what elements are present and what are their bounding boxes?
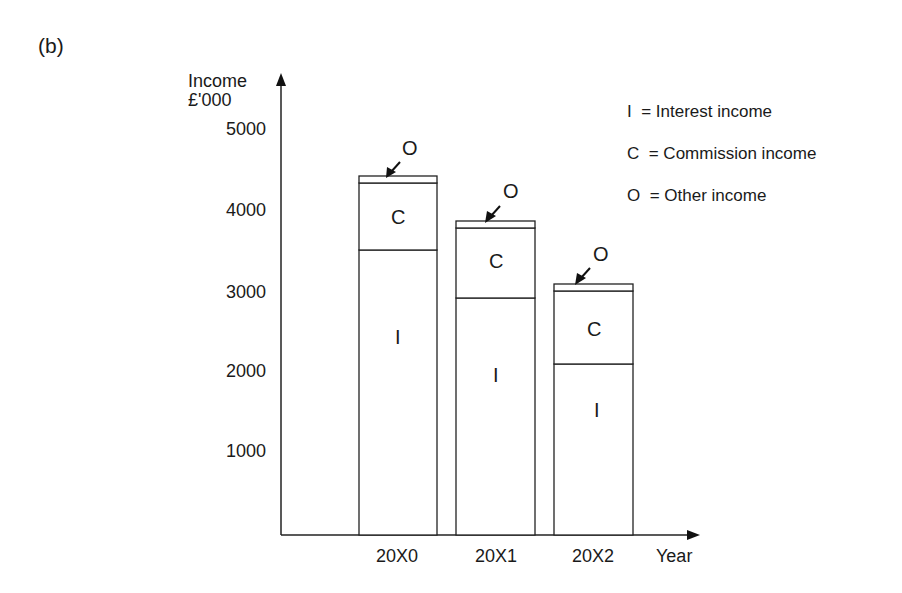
x-axis-arrow-icon bbox=[687, 530, 700, 540]
x-tick-20X0: 20X0 bbox=[357, 546, 437, 567]
segment-other bbox=[554, 284, 633, 291]
x-axis-label: Year bbox=[656, 546, 692, 567]
chart-plot-area bbox=[0, 0, 902, 593]
x-tick-20X1: 20X1 bbox=[456, 546, 536, 567]
legend-item-commission: C = Commission income bbox=[627, 144, 816, 164]
x-tick-20X2: 20X2 bbox=[553, 546, 633, 567]
segment-label-C: C bbox=[489, 250, 503, 273]
segment-other bbox=[359, 176, 437, 183]
bar-20X0 bbox=[359, 176, 437, 535]
annotation-other: O bbox=[402, 137, 418, 160]
segment-interest bbox=[554, 364, 633, 535]
legend-item-interest: I = Interest income bbox=[627, 102, 772, 122]
segment-label-C: C bbox=[587, 318, 601, 341]
segment-interest bbox=[359, 250, 437, 535]
arrow-icon bbox=[575, 268, 590, 285]
segment-label-I: I bbox=[395, 326, 401, 349]
segment-label-I: I bbox=[493, 364, 499, 387]
annotation-other: O bbox=[593, 243, 609, 266]
segment-label-I: I bbox=[594, 399, 600, 422]
legend-item-other: O = Other income bbox=[627, 186, 766, 206]
segment-other bbox=[456, 221, 535, 228]
segment-interest bbox=[456, 298, 535, 535]
y-axis-arrow-icon bbox=[276, 73, 286, 86]
segment-label-C: C bbox=[391, 206, 405, 229]
annotation-other: O bbox=[503, 180, 519, 203]
